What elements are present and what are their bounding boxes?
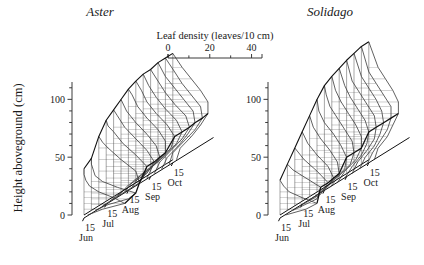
y-axis-tick-label: 50 <box>251 152 261 163</box>
y-axis-tick-label: 0 <box>60 210 65 221</box>
figure-root: 02040Leaf density (leaves/10 cm)Height a… <box>0 0 424 265</box>
panel-title-solidago: Solidago <box>307 4 354 19</box>
date-axis-month-label: Sep <box>341 191 356 202</box>
y-axis-tick-label: 0 <box>256 210 261 221</box>
date-axis-month-label: Oct <box>364 177 379 188</box>
y-axis-tick-label: 100 <box>246 94 261 105</box>
profile-line-solidago <box>369 42 399 160</box>
density-axis-tick-label: 0 <box>166 42 171 53</box>
date-axis-month-label: Aug <box>318 204 335 215</box>
y-axis-title: Height aboveground (cm) <box>11 83 25 212</box>
date-axis-tick <box>279 218 281 221</box>
profile-line-aster <box>128 89 165 187</box>
date-axis-month-label: Jun <box>275 232 289 243</box>
waterfall-figure: 02040Leaf density (leaves/10 cm)Height a… <box>0 0 424 265</box>
y-axis-tick-label: 50 <box>55 152 65 163</box>
profile-line-solidago <box>295 148 328 206</box>
panel-title-aster: Aster <box>85 4 114 19</box>
date-axis-line <box>84 138 214 219</box>
density-mode-trajectory <box>317 114 398 204</box>
date-axis-month-label: Aug <box>122 204 139 215</box>
date-axis-month-label: Oct <box>168 177 183 188</box>
density-axis-tick-label: 20 <box>205 42 215 53</box>
date-axis-month-label: Sep <box>145 191 160 202</box>
density-axis-title: Leaf density (leaves/10 cm) <box>157 30 274 42</box>
date-axis-month-label: Jun <box>79 232 93 243</box>
date-axis-month-label: Jul <box>298 218 310 229</box>
density-axis-tick-label: 40 <box>247 42 257 53</box>
date-axis-tick <box>83 218 85 221</box>
date-axis-month-label: Jul <box>102 218 114 229</box>
y-axis-tick-label: 100 <box>50 94 65 105</box>
